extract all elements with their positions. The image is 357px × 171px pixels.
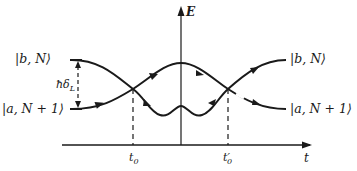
t0-label-sub: 0 xyxy=(133,157,138,166)
gap-label: ħδL xyxy=(56,79,75,93)
gap-label-sub: L xyxy=(70,84,75,93)
t0-label: t0 xyxy=(129,152,139,166)
state-label-left-lower: |a, N + 1⟩ xyxy=(2,103,64,116)
gap-arrow-up-icon xyxy=(75,61,81,68)
energy-level-diagram xyxy=(0,0,357,171)
state-label-right-upper: |b, N⟩ xyxy=(290,53,326,66)
arrow-icon xyxy=(250,67,259,74)
arrow-icon xyxy=(252,99,261,105)
arrow-icon xyxy=(143,99,151,106)
dashed-gap xyxy=(236,94,244,98)
time-axis-arrow-icon xyxy=(302,142,312,149)
gap-label-main: ħδ xyxy=(56,78,70,91)
time-axis-label: t xyxy=(304,152,309,164)
state-label-left-upper: |b, N⟩ xyxy=(15,53,51,66)
state-label-right-lower: |a, N + 1⟩ xyxy=(290,103,352,116)
gap-arrow-down-icon xyxy=(75,101,81,108)
t0-prime-label: t′0 xyxy=(223,152,232,166)
energy-axis-arrow-icon xyxy=(178,6,185,16)
t0-prime-label-sub: 0 xyxy=(227,157,232,166)
energy-axis-label: E xyxy=(186,6,195,18)
